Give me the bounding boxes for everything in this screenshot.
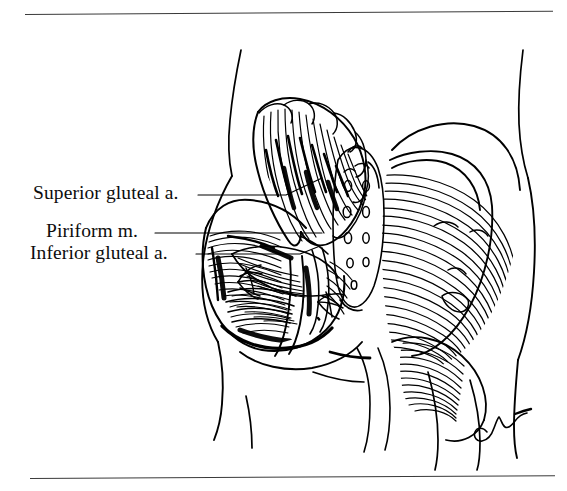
- anatomical-figure: [0, 0, 567, 491]
- illustration-page: Superior gluteal a. Piriform m. Inferior…: [0, 0, 567, 491]
- sacrum-outline: [333, 146, 384, 311]
- posterior-thigh-contours: [246, 372, 480, 470]
- torso-contours: [229, 50, 528, 178]
- gluteal-fold: [313, 348, 390, 452]
- inferior-gluteal-vessel-burst: [318, 292, 344, 319]
- artist-signature: [474, 409, 531, 441]
